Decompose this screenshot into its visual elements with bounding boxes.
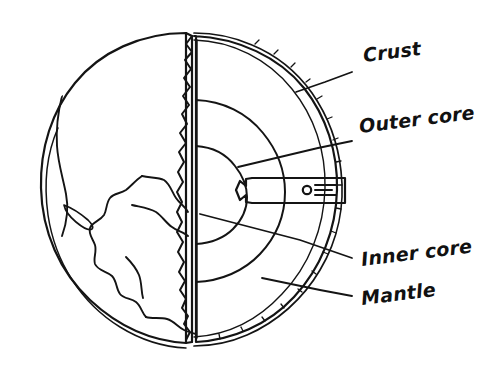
figure-background xyxy=(0,0,504,377)
earth-cutaway-figure: Crust Outer core Inner core Mantle xyxy=(0,0,504,377)
earth-structure-diagram: Crust Outer core Inner core Mantle xyxy=(0,0,504,377)
